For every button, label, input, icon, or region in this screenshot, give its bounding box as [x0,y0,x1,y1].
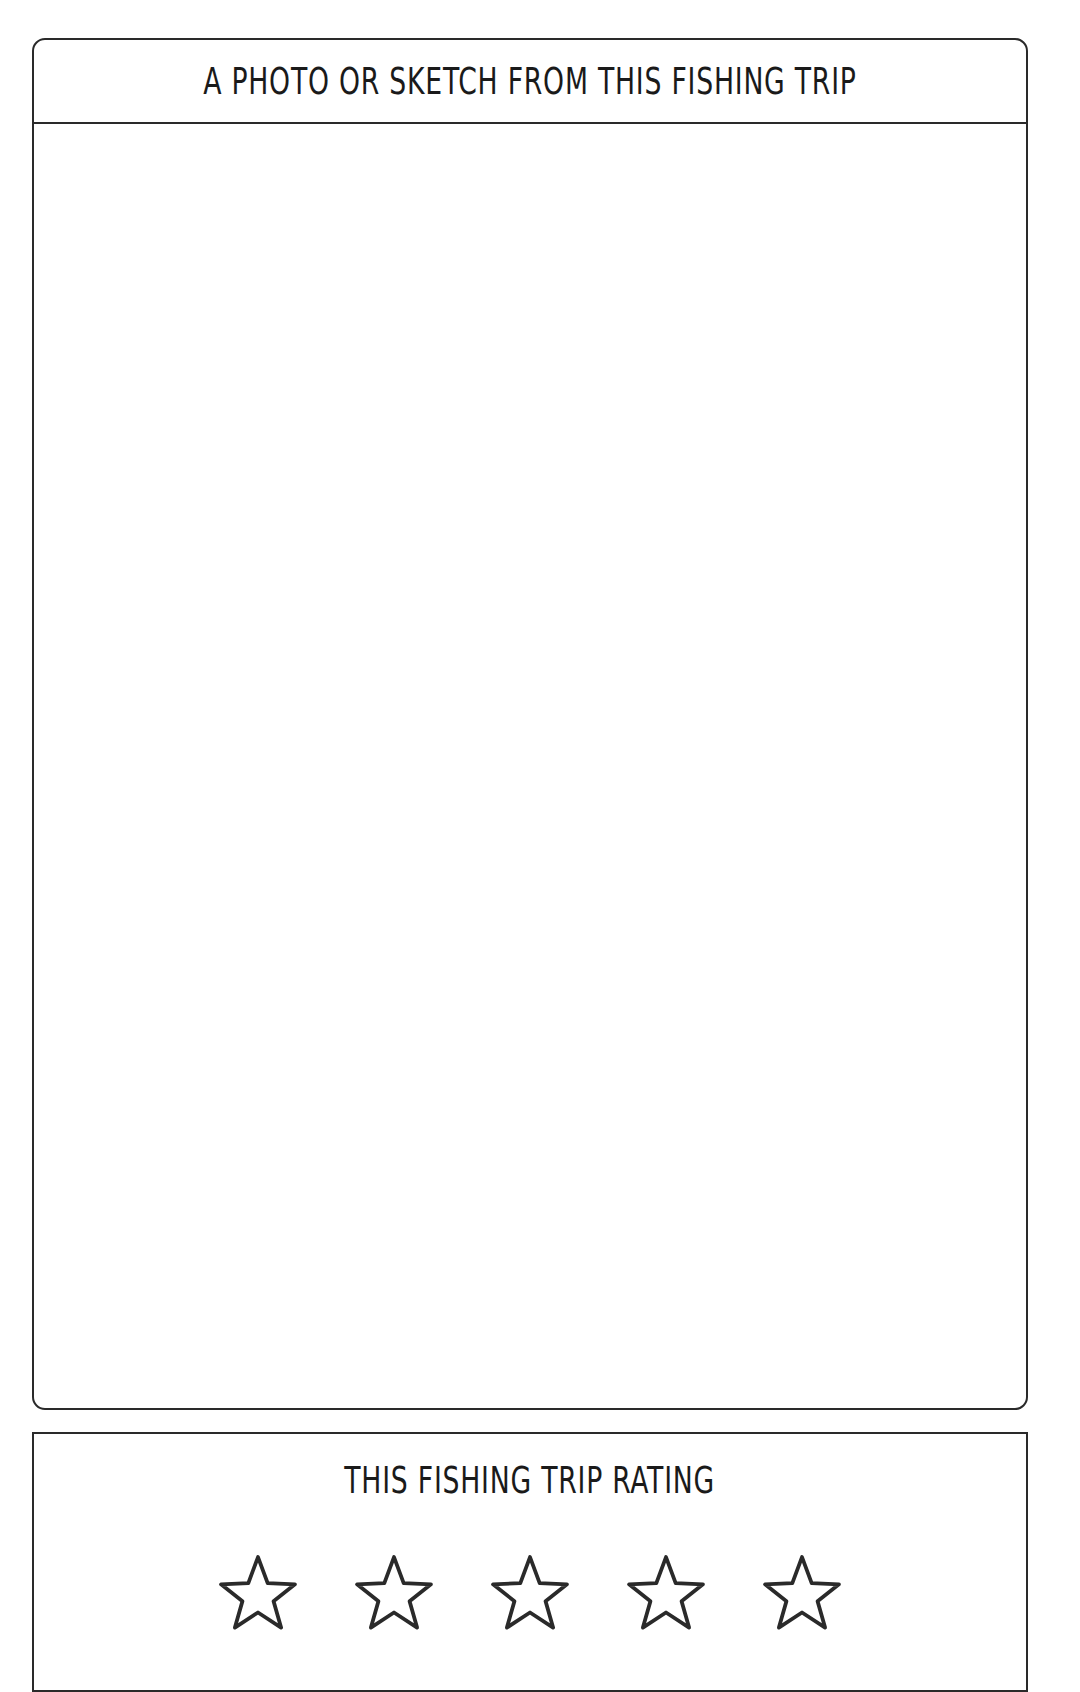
star-icon-1[interactable] [216,1552,300,1636]
trip-rating-box: THIS FISHING TRIP RATING [32,1432,1028,1692]
trip-rating-header: THIS FISHING TRIP RATING [34,1458,1026,1502]
photo-sketch-header: A PHOTO OR SKETCH FROM THIS FISHING TRIP [34,40,1026,124]
photo-sketch-title: A PHOTO OR SKETCH FROM THIS FISHING TRIP [203,59,857,103]
photo-sketch-drawing-area[interactable] [34,124,1026,1408]
star-icon-4[interactable] [624,1552,708,1636]
star-rating [34,1552,1026,1636]
photo-sketch-box: A PHOTO OR SKETCH FROM THIS FISHING TRIP [32,38,1028,1410]
star-icon-5[interactable] [760,1552,844,1636]
star-icon-2[interactable] [352,1552,436,1636]
star-icon-3[interactable] [488,1552,572,1636]
trip-rating-title: THIS FISHING TRIP RATING [345,1458,716,1502]
